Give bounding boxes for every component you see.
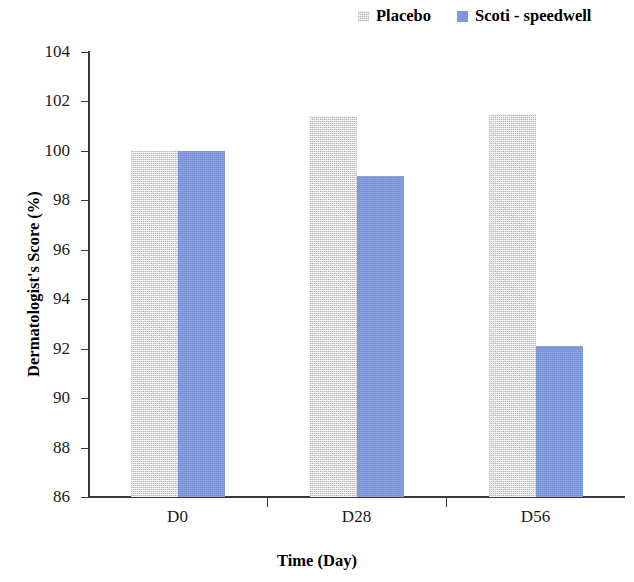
legend-swatch-scoti-icon xyxy=(457,11,468,22)
y-axis-tick xyxy=(81,398,89,399)
bar-d0-scoti xyxy=(178,151,225,497)
x-axis-tick xyxy=(446,498,447,507)
y-axis-tick xyxy=(81,299,89,300)
y-axis-tick xyxy=(81,448,89,449)
plot-area xyxy=(88,52,625,497)
y-axis-tick-label: 100 xyxy=(45,141,71,161)
y-axis-tick-label: 98 xyxy=(53,190,70,210)
y-axis-tick xyxy=(81,151,89,152)
bar-d56-scoti xyxy=(536,346,583,497)
bar-d28-scoti xyxy=(357,176,404,497)
y-axis-tick-label: 86 xyxy=(53,487,70,507)
chart-legend: Placebo Scoti - speedwell xyxy=(358,5,591,27)
y-axis-tick-label: 102 xyxy=(45,91,71,111)
y-axis-tick xyxy=(81,101,89,102)
legend-label-placebo: Placebo xyxy=(376,8,431,25)
y-axis-tick xyxy=(81,349,89,350)
bar-d56-placebo xyxy=(489,114,536,497)
y-axis-tick xyxy=(81,200,89,201)
bar-chart: Placebo Scoti - speedwell 86889092949698… xyxy=(0,0,634,582)
bar-d28-placebo xyxy=(310,116,357,497)
y-axis-tick xyxy=(81,52,89,53)
y-axis-tick-label: 104 xyxy=(45,42,71,62)
y-axis-title: Dermatologist's Score (%) xyxy=(24,154,44,414)
y-axis-tick-label: 90 xyxy=(53,388,70,408)
y-axis-tick xyxy=(81,497,89,498)
y-axis-tick-label: 94 xyxy=(53,289,70,309)
legend-item-scoti: Scoti - speedwell xyxy=(457,8,591,25)
bar-d0-placebo xyxy=(131,151,178,497)
x-axis-tick-label-d28: D28 xyxy=(342,507,371,527)
y-axis-tick xyxy=(81,250,89,251)
y-axis-tick-label: 88 xyxy=(53,438,70,458)
legend-item-placebo: Placebo xyxy=(358,8,431,25)
x-axis-title: Time (Day) xyxy=(0,551,634,571)
x-axis-tick xyxy=(267,498,268,507)
x-axis-tick-label-d56: D56 xyxy=(521,507,550,527)
y-axis-tick-label: 96 xyxy=(53,240,70,260)
legend-label-scoti: Scoti - speedwell xyxy=(475,8,591,25)
y-axis-tick-label: 92 xyxy=(53,339,70,359)
legend-swatch-placebo-icon xyxy=(358,11,369,22)
x-axis-tick-label-d0: D0 xyxy=(167,507,188,527)
